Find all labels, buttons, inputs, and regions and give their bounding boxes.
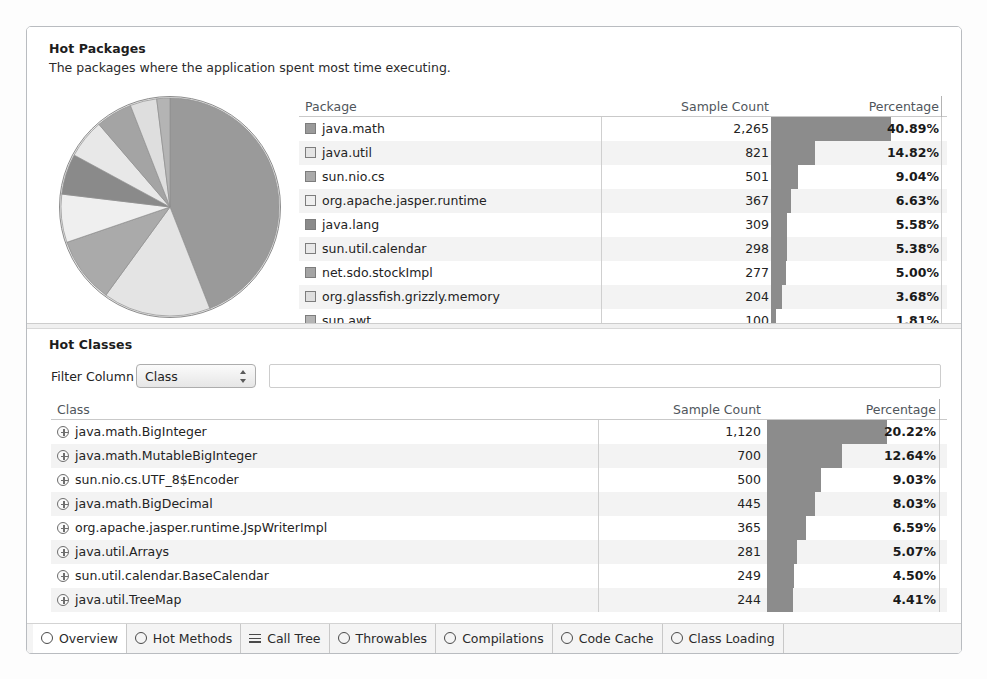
row-percentage: 9.04% <box>799 169 939 184</box>
row-percentage: 3.68% <box>799 289 939 304</box>
column-header-percentage[interactable]: Percentage <box>796 402 936 417</box>
row-sample-count: 501 <box>629 169 769 184</box>
row-name-cell: sun.util.calendar <box>305 241 426 256</box>
row-sample-count: 244 <box>621 592 761 607</box>
row-name-cell: sun.nio.cs.UTF_8$Encoder <box>57 472 239 487</box>
row-name-cell: java.math <box>305 121 385 136</box>
row-name-cell: sun.util.calendar.BaseCalendar <box>57 568 269 583</box>
tab-label: Compilations <box>462 631 544 646</box>
row-name-label: sun.nio.cs.UTF_8$Encoder <box>75 472 239 487</box>
row-sample-count: 365 <box>621 520 761 535</box>
tab-call-tree[interactable]: Call Tree <box>241 624 329 653</box>
row-name-label: java.util.Arrays <box>75 544 169 559</box>
tab-code-cache[interactable]: Code Cache <box>553 624 663 653</box>
row-name-label: java.math.MutableBigInteger <box>75 448 257 463</box>
row-name-cell: java.math.BigDecimal <box>57 496 213 511</box>
row-name-cell: net.sdo.stockImpl <box>305 265 433 280</box>
compilations-icon <box>444 632 457 645</box>
profiler-window: Hot Packages The packages where the appl… <box>0 0 987 679</box>
percentage-bar <box>771 213 787 237</box>
hot-classes-title: Hot Classes <box>49 337 132 352</box>
row-name-cell: java.math.BigInteger <box>57 424 207 439</box>
tab-label: Hot Methods <box>153 631 232 646</box>
tab-hot-methods[interactable]: Hot Methods <box>127 624 241 653</box>
color-swatch-icon <box>305 219 316 230</box>
table-row[interactable]: sun.util.calendar2985.38% <box>299 237 947 261</box>
row-percentage: 6.59% <box>796 520 936 535</box>
row-percentage: 8.03% <box>796 496 936 511</box>
column-header-class[interactable]: Class <box>57 402 90 417</box>
table-row[interactable]: org.apache.jasper.runtime.JspWriterImpl3… <box>51 516 947 540</box>
code-cache-icon <box>561 632 574 645</box>
row-name-label: sun.util.calendar <box>322 241 426 256</box>
row-sample-count: 500 <box>621 472 761 487</box>
row-name-label: sun.nio.cs <box>322 169 385 184</box>
row-percentage: 40.89% <box>799 121 939 136</box>
table-row[interactable]: org.glassfish.grizzly.memory2043.68% <box>299 285 947 309</box>
overview-icon <box>41 632 54 645</box>
hot-packages-rows: java.math2,26540.89%java.util82114.82%su… <box>299 117 947 328</box>
color-swatch-icon <box>305 291 316 302</box>
tab-overview[interactable]: Overview <box>33 624 127 653</box>
filter-row: Filter Column Class <box>51 364 941 390</box>
row-name-label: org.glassfish.grizzly.memory <box>322 289 500 304</box>
row-percentage: 4.50% <box>796 568 936 583</box>
row-name-label: net.sdo.stockImpl <box>322 265 433 280</box>
pie-circle <box>59 96 281 318</box>
row-name-label: java.math.BigInteger <box>75 424 207 439</box>
row-name-cell: org.apache.jasper.runtime <box>305 193 487 208</box>
class-icon <box>57 546 69 558</box>
filter-column-label: Filter Column <box>51 369 134 384</box>
table-row[interactable]: java.math.BigInteger1,12020.22% <box>51 420 947 444</box>
hot-methods-icon <box>135 632 148 645</box>
percentage-bar <box>771 189 791 213</box>
chevron-updown-icon <box>240 369 248 385</box>
row-percentage: 20.22% <box>796 424 936 439</box>
column-header-sample-count[interactable]: Sample Count <box>621 402 761 417</box>
row-sample-count: 1,120 <box>621 424 761 439</box>
pie-slices <box>60 97 280 317</box>
filter-column-select[interactable]: Class <box>136 364 256 388</box>
column-header-sample-count[interactable]: Sample Count <box>629 99 769 114</box>
color-swatch-icon <box>305 243 316 254</box>
column-header-package[interactable]: Package <box>305 99 357 114</box>
tab-label: Call Tree <box>267 631 320 646</box>
class-icon <box>57 426 69 438</box>
header-separator <box>941 96 942 117</box>
hot-packages-table[interactable]: Package Sample Count Percentage java.mat… <box>299 96 947 328</box>
table-row[interactable]: sun.nio.cs.UTF_8$Encoder5009.03% <box>51 468 947 492</box>
row-name-label: java.lang <box>322 217 379 232</box>
hot-packages-pie-chart[interactable] <box>57 96 289 328</box>
row-name-cell: java.util.TreeMap <box>57 592 181 607</box>
filter-search-input[interactable] <box>269 364 941 388</box>
row-percentage: 14.82% <box>799 145 939 160</box>
row-name-cell: java.util.Arrays <box>57 544 169 559</box>
table-row[interactable]: net.sdo.stockImpl2775.00% <box>299 261 947 285</box>
tab-throwables[interactable]: Throwables <box>330 624 437 653</box>
column-header-percentage[interactable]: Percentage <box>799 99 939 114</box>
column-separator <box>598 420 599 612</box>
percentage-bar <box>771 237 787 261</box>
percentage-bar <box>767 564 794 588</box>
tab-class-loading[interactable]: Class Loading <box>663 624 784 653</box>
call-tree-icon <box>249 632 262 645</box>
table-row[interactable]: java.math.MutableBigInteger70012.64% <box>51 444 947 468</box>
row-name-label: sun.util.calendar.BaseCalendar <box>75 568 269 583</box>
table-row[interactable]: sun.util.calendar.BaseCalendar2494.50% <box>51 564 947 588</box>
table-row[interactable]: java.math2,26540.89% <box>299 117 947 141</box>
hot-classes-table[interactable]: Class Sample Count Percentage java.math.… <box>51 399 947 614</box>
table-row[interactable]: java.util82114.82% <box>299 141 947 165</box>
row-name-label: java.math.BigDecimal <box>75 496 213 511</box>
table-row[interactable]: java.util.TreeMap2444.41% <box>51 588 947 612</box>
row-name-label: org.apache.jasper.runtime.JspWriterImpl <box>75 520 327 535</box>
table-row[interactable]: java.lang3095.58% <box>299 213 947 237</box>
table-row[interactable]: java.util.Arrays2815.07% <box>51 540 947 564</box>
table-row[interactable]: org.apache.jasper.runtime3676.63% <box>299 189 947 213</box>
table-row[interactable]: sun.nio.cs5019.04% <box>299 165 947 189</box>
table-row[interactable]: java.math.BigDecimal4458.03% <box>51 492 947 516</box>
row-percentage: 4.41% <box>796 592 936 607</box>
row-percentage: 5.07% <box>796 544 936 559</box>
hot-classes-panel: Hot Classes Filter Column Class Class <box>27 329 962 654</box>
class-loading-icon <box>671 632 684 645</box>
tab-compilations[interactable]: Compilations <box>436 624 553 653</box>
